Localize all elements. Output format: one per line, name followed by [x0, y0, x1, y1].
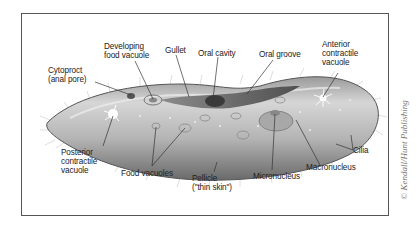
- paramecium-illustration: [0, 0, 420, 234]
- label-pellicle: Pellicle ("thin skin"): [192, 174, 232, 192]
- label-developing-food-vacuole: Developing food vacuole: [104, 42, 149, 60]
- label-food-vacuoles: Food vacuoles: [121, 169, 173, 178]
- label-posterior-contractile-vacuole: Posterior contractile vacuole: [61, 148, 97, 175]
- label-cilia: Cilia: [353, 146, 368, 155]
- label-oral-cavity: Oral cavity: [198, 49, 236, 58]
- label-cytoproct: Cytoproct (anal pore): [48, 66, 87, 84]
- oral-cavity: [205, 95, 225, 107]
- label-anterior-contractile-vacuole: Anterior contractile vacuole: [322, 40, 358, 67]
- label-oral-groove: Oral groove: [259, 50, 301, 59]
- label-macronucleus: Macronucleus: [306, 163, 356, 172]
- label-micronucleus: Micronucleus: [253, 172, 300, 181]
- label-gullet: Gullet: [165, 46, 186, 55]
- copyright-notice: © Kendall/Hunt Publishing: [399, 100, 409, 199]
